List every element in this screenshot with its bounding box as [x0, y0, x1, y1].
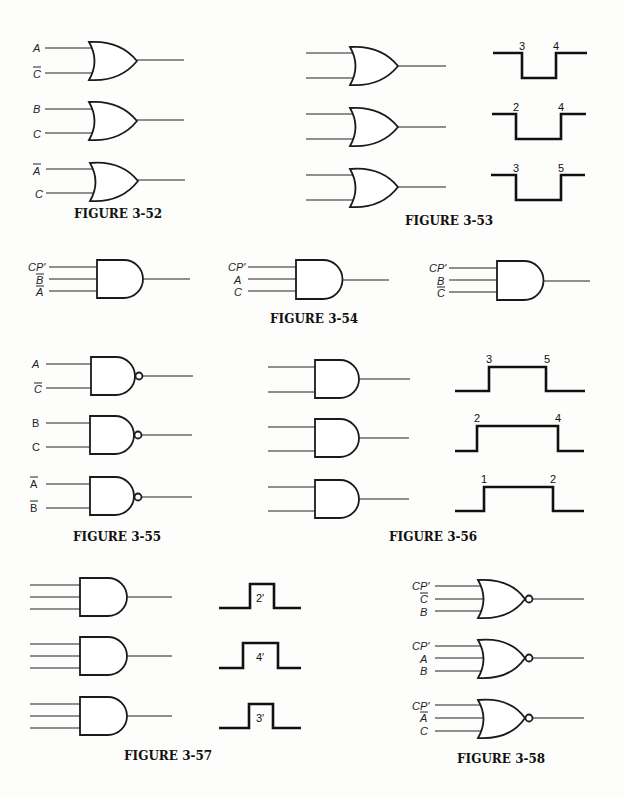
- textbook-page: A C B C A C FIGURE 3-52: [0, 0, 624, 798]
- edge-label: 3: [513, 162, 519, 174]
- figure-caption: FIGURE 3-54: [270, 312, 358, 326]
- nand-gate-icon: [46, 357, 193, 395]
- figure-caption: FIGURE 3-57: [124, 749, 212, 763]
- figure-3-58: CP' C B CP' A B CP' A C FIGURE 3-58: [412, 580, 584, 766]
- input-label: A: [419, 712, 427, 724]
- edge-label: 5: [558, 162, 564, 174]
- pulse-waveform: 2′: [219, 584, 301, 608]
- edge-label: 3: [519, 40, 525, 52]
- waveform: 3 5: [455, 353, 585, 391]
- and-gate-icon: [268, 480, 409, 518]
- pulse-waveform: 3′: [219, 704, 301, 728]
- input-label: B: [420, 665, 427, 677]
- input-label: B: [32, 417, 39, 429]
- nor-gate-icon: [435, 580, 584, 618]
- input-label: A: [419, 653, 427, 665]
- edge-label: 1: [481, 473, 487, 485]
- waveform: 2 4: [492, 101, 586, 139]
- input-label: A: [32, 165, 40, 177]
- waveform: 3 4: [493, 40, 587, 78]
- input-label: B: [36, 274, 43, 286]
- and-gate-icon: [268, 419, 409, 457]
- input-label: C: [420, 593, 428, 605]
- input-label: B: [437, 275, 444, 287]
- and-gate-icon: [248, 260, 389, 299]
- input-label: CP': [412, 700, 430, 712]
- input-label: C: [33, 68, 41, 80]
- nand-gate-icon: [46, 416, 192, 454]
- or-gate-icon: [45, 42, 184, 80]
- input-label: CP': [28, 261, 46, 273]
- or-gate-icon: [46, 163, 185, 202]
- input-label: C: [33, 128, 41, 140]
- nor-gate-icon: [435, 640, 584, 679]
- input-label: CP': [429, 262, 447, 274]
- input-label: CP': [228, 261, 246, 273]
- or-gate-icon: [306, 108, 446, 146]
- edge-label: 3: [486, 353, 492, 365]
- input-label: C: [34, 383, 42, 395]
- input-label: CP': [412, 640, 430, 652]
- and-gate-icon: [30, 697, 172, 735]
- figure-caption: FIGURE 3-56: [389, 530, 477, 544]
- figure-caption: FIGURE 3-58: [457, 752, 545, 766]
- edge-label: 2: [513, 101, 519, 113]
- figure-3-55: A C B C A B FIGURE 3-55: [30, 357, 193, 544]
- nand-gate-icon: [46, 477, 192, 515]
- nor-gate-icon: [435, 700, 584, 739]
- waveform: 3 5: [491, 162, 585, 200]
- and-gate-icon: [268, 360, 410, 398]
- input-label: C: [420, 725, 428, 737]
- pulse-waveform: 4′: [219, 643, 301, 668]
- or-gate-icon: [306, 47, 446, 85]
- figure-caption: FIGURE 3-53: [405, 214, 493, 228]
- and-gate-icon: [449, 261, 590, 300]
- waveform: 2 4: [455, 412, 584, 451]
- edge-label: 4: [558, 101, 564, 113]
- input-label: CP': [412, 580, 430, 592]
- figure-3-56: 3 5 2 4 1 2 FIGURE 3-56: [268, 353, 585, 544]
- input-label: B: [33, 103, 40, 115]
- figure-3-53: 3 4 2 4 3 5 FIGURE 3-53: [306, 40, 587, 228]
- pulse-label: 3′: [256, 712, 264, 724]
- and-gate-icon: [30, 578, 172, 616]
- figure-caption: FIGURE 3-52: [74, 207, 162, 221]
- input-label: A: [35, 286, 43, 298]
- input-label: B: [420, 606, 427, 618]
- figure-caption: FIGURE 3-55: [73, 530, 161, 544]
- input-label: C: [35, 188, 43, 200]
- input-label: C: [234, 286, 242, 298]
- or-gate-icon: [45, 102, 184, 140]
- edge-label: 4: [553, 40, 559, 52]
- input-label: A: [31, 358, 39, 370]
- input-label: C: [32, 441, 40, 453]
- and-gate-icon: [30, 637, 172, 675]
- waveform: 1 2: [455, 473, 584, 511]
- pulse-label: 2′: [256, 592, 264, 604]
- edge-label: 2: [550, 473, 556, 485]
- input-label: A: [233, 274, 241, 286]
- edge-label: 5: [544, 353, 550, 365]
- input-label: B: [30, 502, 37, 514]
- input-label: A: [32, 42, 40, 54]
- pulse-label: 4′: [256, 651, 264, 663]
- input-label: C: [437, 287, 445, 299]
- and-gate-icon: [49, 260, 190, 298]
- edge-label: 4: [555, 412, 561, 424]
- figure-3-52: A C B C A C FIGURE 3-52: [32, 42, 185, 221]
- or-gate-icon: [306, 169, 446, 208]
- figure-3-54: CP' B A CP' A C CP' B C FIGURE 3-54: [28, 260, 590, 326]
- figure-3-57: 2′ 4′ 3′ FIGURE 3-57: [30, 578, 301, 763]
- edge-label: 2: [474, 412, 480, 424]
- input-label: A: [30, 478, 38, 490]
